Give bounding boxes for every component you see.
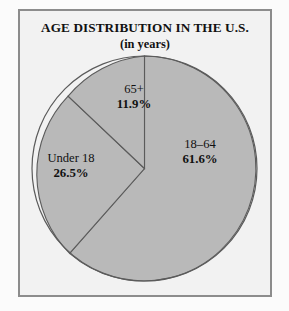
pie-label-under-18: Under 18 26.5% (12, 151, 130, 180)
pie-label-under-18-name: Under 18 (12, 151, 130, 166)
pie-label-65-plus: 65+ 11.9% (88, 82, 180, 111)
pie-label-18-64: 18–64 61.6% (148, 137, 252, 166)
figure-container: AGE DISTRIBUTION IN THE U.S. (in years) … (0, 0, 289, 311)
pie-chart: 18–64 61.6% Under 18 26.5% 65+ 11.9% (0, 0, 289, 311)
pie-label-under-18-value: 26.5% (12, 166, 130, 181)
pie-label-18-64-value: 61.6% (148, 152, 252, 167)
pie-label-65-plus-value: 11.9% (88, 97, 180, 112)
pie-label-65-plus-name: 65+ (88, 82, 180, 97)
pie-label-18-64-name: 18–64 (148, 137, 252, 152)
